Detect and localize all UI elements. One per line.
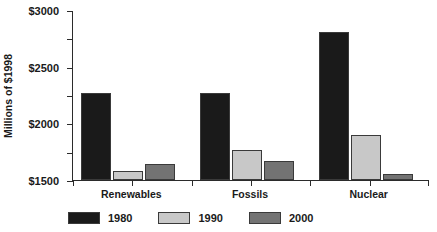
bar-nuclear-1990 — [351, 135, 381, 180]
y-axis-tick-label: $2500 — [28, 62, 59, 75]
legend-item-2000: 2000 — [249, 212, 313, 224]
y-axis-tick-label: $2000 — [28, 118, 59, 131]
y-axis-tick: $500 — [67, 153, 73, 154]
bar-chart-figure: Millions of $1998 S0$500$1000$1500$2000$… — [0, 0, 437, 232]
bar-fossils-1990 — [232, 150, 262, 180]
y-axis-tick-label: $1500 — [28, 175, 59, 188]
y-axis-tick: $1500 — [67, 96, 73, 97]
legend-label-1990: 1990 — [198, 212, 222, 224]
y-axis-tick: $1000 — [67, 124, 73, 125]
bar-fossils-1980 — [200, 93, 230, 180]
legend-swatch-1980 — [68, 212, 100, 224]
x-axis-label-nuclear: Nuclear — [349, 188, 388, 200]
x-axis-tick — [132, 180, 133, 186]
x-axis-tick — [310, 180, 311, 186]
bar-fossils-2000 — [264, 161, 294, 180]
bar-nuclear-2000 — [383, 174, 413, 180]
y-axis-tick: $2500 — [67, 39, 73, 40]
plot-area: S0$500$1000$1500$2000$2500$3000 — [72, 11, 428, 181]
chart-legend: 198019902000 — [68, 212, 339, 224]
legend-label-1980: 1980 — [108, 212, 132, 224]
x-axis-tick — [73, 180, 74, 186]
y-axis-tick: $3000 — [67, 11, 73, 12]
y-axis-tick-label: $3000 — [28, 5, 59, 18]
bar-renewables-1990 — [113, 171, 143, 180]
x-axis-label-fossils: Fossils — [232, 188, 268, 200]
legend-item-1990: 1990 — [158, 212, 222, 224]
x-axis-tick — [370, 180, 371, 186]
y-axis-title-wrapper: Millions of $1998 — [0, 11, 16, 181]
bar-renewables-1980 — [81, 93, 111, 180]
legend-swatch-2000 — [249, 212, 281, 224]
legend-swatch-1990 — [158, 212, 190, 224]
y-axis-tick: $2000 — [67, 68, 73, 69]
x-axis-tick — [428, 180, 429, 186]
x-axis-tick — [192, 180, 193, 186]
legend-label-2000: 2000 — [289, 212, 313, 224]
bar-renewables-2000 — [145, 164, 175, 180]
bar-nuclear-1980 — [319, 32, 349, 180]
y-axis-title: Millions of $1998 — [2, 54, 14, 138]
legend-item-1980: 1980 — [68, 212, 132, 224]
x-axis-label-renewables: Renewables — [101, 188, 162, 200]
x-axis-tick — [251, 180, 252, 186]
